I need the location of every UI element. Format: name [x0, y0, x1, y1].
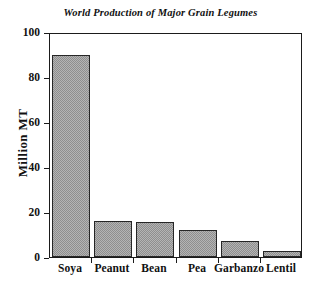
y-tick-label: 0: [0, 252, 40, 264]
x-tick-mark: [176, 258, 177, 263]
x-label-pea: Pea: [188, 262, 206, 274]
x-label-lentil: Lentil: [266, 262, 296, 274]
bar-garbanzo: [221, 241, 259, 257]
chart-title: World Production of Major Grain Legumes: [0, 7, 321, 18]
x-label-peanut: Peanut: [94, 262, 129, 274]
y-tick-mark: [44, 258, 49, 259]
x-tick-mark: [133, 258, 134, 263]
y-tick-mark: [44, 123, 49, 124]
plot-area: [49, 33, 302, 258]
bar-soya: [52, 55, 90, 258]
y-tick-mark: [44, 78, 49, 79]
bars-container: [50, 34, 301, 257]
y-tick-label: 60: [0, 117, 40, 129]
y-axis-label: Million MT: [15, 88, 31, 198]
y-tick-label: 100: [0, 27, 40, 39]
y-tick-label: 80: [0, 72, 40, 84]
y-tick-label: 20: [0, 207, 40, 219]
x-label-bean: Bean: [141, 262, 166, 274]
y-tick-mark: [44, 33, 49, 34]
chart-figure: World Production of Major Grain Legumes …: [0, 0, 321, 294]
bar-peanut: [94, 221, 132, 257]
y-tick-mark: [44, 168, 49, 169]
x-label-soya: Soya: [58, 262, 82, 274]
y-tick-mark: [44, 213, 49, 214]
x-tick-mark: [91, 258, 92, 263]
x-label-garbanzo: Garbanzo: [214, 262, 264, 274]
bar-pea: [179, 230, 217, 257]
y-tick-label: 40: [0, 162, 40, 174]
bar-lentil: [263, 251, 301, 257]
bar-bean: [136, 222, 174, 257]
